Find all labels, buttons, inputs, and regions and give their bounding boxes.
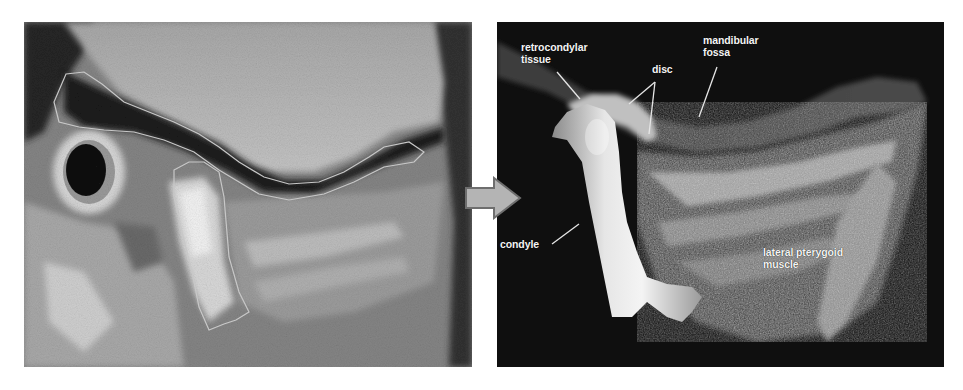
label-condyle: condyle — [500, 238, 539, 250]
label-retrocondylar-tissue: retrocondylar tissue — [521, 41, 587, 65]
label-disc: disc — [652, 63, 673, 75]
label-lateral-pterygoid-muscle: lateral pterygoid muscle — [763, 246, 843, 270]
3d-reconstruction-image: retrocondylar tissue disc mandibular fos… — [497, 22, 944, 367]
mri-slice-graphic — [24, 22, 472, 367]
right-arrow-icon — [462, 176, 524, 220]
label-mandibular-fossa: mandibular fossa — [703, 34, 759, 58]
3d-reconstruction-graphic — [497, 22, 944, 367]
mri-slice-image — [24, 22, 472, 367]
